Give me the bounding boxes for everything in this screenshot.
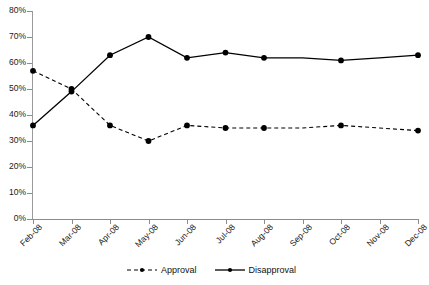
x-tick-mark: [380, 219, 381, 224]
data-point-approval: [338, 123, 344, 129]
y-tick-label: 60%: [0, 58, 26, 67]
solid-line-icon: [215, 265, 245, 275]
x-tick-label: Jun-08: [160, 222, 198, 260]
data-point-approval: [184, 123, 190, 129]
x-tick-mark: [149, 219, 150, 224]
y-tick-label: 0%: [0, 214, 26, 223]
data-point-disapproval: [184, 55, 190, 61]
x-tick-mark: [226, 219, 227, 224]
x-tick-label: Mar-08: [44, 222, 82, 260]
series-line-disapproval: [33, 37, 418, 125]
data-point-approval: [69, 86, 75, 92]
x-tick-label: Aug-08: [237, 222, 275, 260]
x-tick-label: Feb-08: [6, 222, 44, 260]
series-line-approval: [33, 71, 418, 141]
x-tick-mark: [303, 219, 304, 224]
y-tick-label: 40%: [0, 110, 26, 119]
legend-item-disapproval: Disapproval: [215, 265, 297, 275]
x-tick-label: Apr-08: [83, 222, 121, 260]
data-point-approval: [30, 68, 36, 74]
x-tick-label: Oct-08: [314, 222, 352, 260]
data-point-disapproval: [338, 58, 344, 64]
y-tick-label: 20%: [0, 162, 26, 171]
data-point-disapproval: [261, 55, 267, 61]
y-tick-label: 70%: [0, 32, 26, 41]
y-tick-label: 30%: [0, 136, 26, 145]
legend-item-approval: Approval: [127, 265, 197, 275]
legend-label-disapproval: Disapproval: [249, 265, 297, 275]
x-tick-mark: [72, 219, 73, 224]
data-point-approval: [223, 125, 229, 131]
y-axis-line: [32, 11, 33, 220]
y-tick-label: 50%: [0, 84, 26, 93]
dashed-line-icon: [127, 265, 157, 275]
data-point-disapproval: [146, 34, 152, 40]
x-tick-label: May-08: [121, 222, 159, 260]
x-tick-label: Sep-08: [275, 222, 313, 260]
data-point-approval: [415, 128, 421, 134]
data-point-disapproval: [223, 50, 229, 56]
data-point-approval: [107, 123, 113, 129]
chart-legend: Approval Disapproval: [0, 265, 423, 275]
data-point-approval: [261, 125, 267, 131]
data-point-disapproval: [415, 52, 421, 58]
x-tick-label: Nov-08: [352, 222, 390, 260]
data-point-disapproval: [69, 89, 75, 95]
data-point-disapproval: [107, 52, 113, 58]
legend-label-approval: Approval: [161, 265, 197, 275]
y-tick-label: 10%: [0, 188, 26, 197]
x-tick-label: Jul-08: [198, 222, 236, 260]
data-point-disapproval: [30, 123, 36, 129]
x-tick-label: Dec-08: [391, 222, 429, 260]
data-point-approval: [146, 138, 152, 144]
y-tick-label: 80%: [0, 6, 26, 15]
